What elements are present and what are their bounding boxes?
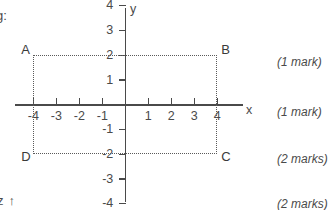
y-axis-tick (119, 203, 126, 204)
vertex-label-a: A (21, 43, 30, 56)
vertex-label-c: C (221, 150, 230, 163)
y-axis-tick (119, 30, 126, 31)
y-axis-tick-label: -4 (91, 197, 113, 210)
y-axis-tick (119, 5, 126, 6)
mark-allocation-note: (2 marks) (277, 152, 328, 166)
x-axis-label: x (246, 104, 252, 117)
y-axis-label: y (130, 3, 136, 16)
coordinate-graph: x y -4-3-2-112344321-1-2-3-4 A B C D (0, 0, 270, 210)
y-axis-tick-label: 4 (91, 0, 113, 12)
mark-allocation-note: (2 marks) (277, 197, 328, 210)
mark-allocation-note: (1 mark) (277, 55, 322, 69)
marks-column: (1 mark)(1 mark)(2 marks)(2 marks) (277, 0, 334, 210)
vertex-label-b: B (221, 43, 230, 56)
mark-allocation-note: (1 mark) (277, 105, 322, 119)
y-axis-tick-label: 3 (91, 24, 113, 37)
y-axis-tick (119, 178, 126, 179)
shape-rectangle-abcd (33, 55, 217, 154)
y-axis-tick-label: -3 (91, 173, 113, 186)
vertex-label-d: D (21, 150, 30, 163)
